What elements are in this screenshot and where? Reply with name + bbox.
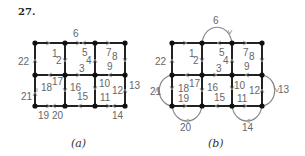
edge-label: 16 xyxy=(70,82,82,93)
panel-a-caption: (a) xyxy=(71,137,86,150)
edge-label: 13 xyxy=(278,84,290,95)
edge-label: 5 xyxy=(82,47,88,58)
edge-label: 12 xyxy=(112,85,124,96)
edge-label: 14 xyxy=(242,122,254,133)
edge-label: 10 xyxy=(99,78,111,89)
panel-b-caption: (b) xyxy=(208,137,224,150)
edge-label: 9 xyxy=(107,61,113,72)
edge-label: 17 xyxy=(189,78,201,89)
edge-label: 5 xyxy=(219,47,225,58)
edge-label: 21 xyxy=(21,91,33,102)
edge-label: 10 xyxy=(234,80,246,91)
edge-label: 12 xyxy=(249,85,261,96)
edge-label: 2 xyxy=(56,55,62,66)
edge-label: 18 xyxy=(41,82,53,93)
edge-label: 19 xyxy=(178,93,190,104)
edge-label: 2 xyxy=(193,55,199,66)
edge-label: 11 xyxy=(100,92,111,103)
edge-label: 15 xyxy=(214,92,226,103)
edge-label: 21 xyxy=(150,86,162,97)
edge-label: 8 xyxy=(112,51,118,62)
edge-label: 9 xyxy=(244,61,250,72)
edge-label: 19 xyxy=(38,110,50,121)
edge-label: 6 xyxy=(73,28,79,39)
edge-label: 16 xyxy=(207,82,219,93)
edge-label: 22 xyxy=(155,56,167,67)
edge-label: 22 xyxy=(18,56,30,67)
edge-label: 6 xyxy=(213,15,219,26)
edge-label: 11 xyxy=(237,93,248,104)
edge-label: 14 xyxy=(112,110,124,121)
edge-label: 20 xyxy=(52,110,64,121)
edge-label: 3 xyxy=(79,63,85,74)
edge-label: 13 xyxy=(129,80,141,91)
panel-b-graph: 12345678910111213141516171819202122 (b) xyxy=(150,15,290,150)
edge-label: 3 xyxy=(216,63,222,74)
panel-a-graph: 12345678910111213141516171819202122 (a) xyxy=(18,28,141,150)
edge-label: 20 xyxy=(180,122,192,133)
graph-diagrams: 12345678910111213141516171819202122 (a) xyxy=(0,0,305,156)
edge-label: 17 xyxy=(52,76,64,87)
edge-label: 8 xyxy=(249,51,255,62)
